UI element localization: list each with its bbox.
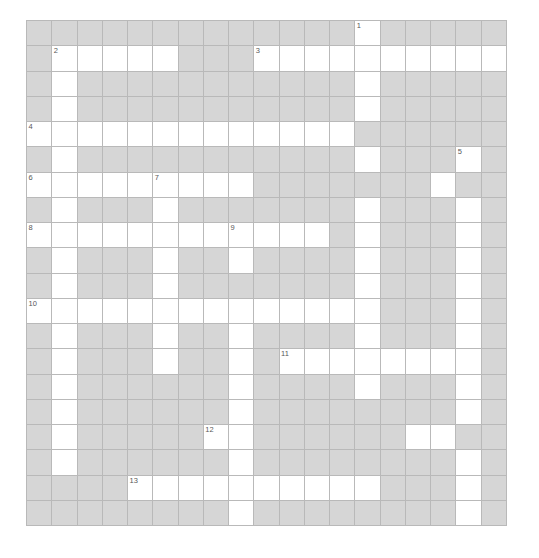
- letter-cell[interactable]: [52, 122, 77, 147]
- letter-cell[interactable]: [355, 147, 380, 172]
- letter-cell[interactable]: [254, 122, 279, 147]
- letter-cell[interactable]: [355, 198, 380, 223]
- letter-cell[interactable]: [52, 198, 77, 223]
- letter-cell[interactable]: [456, 274, 481, 299]
- letter-cell[interactable]: [229, 476, 254, 501]
- letter-cell[interactable]: [280, 223, 305, 248]
- letter-cell[interactable]: [204, 299, 229, 324]
- letter-cell[interactable]: [204, 173, 229, 198]
- letter-cell[interactable]: [456, 46, 481, 71]
- letter-cell[interactable]: [153, 349, 178, 374]
- letter-cell[interactable]: [456, 400, 481, 425]
- letter-cell[interactable]: [254, 223, 279, 248]
- letter-cell[interactable]: [355, 46, 380, 71]
- letter-cell[interactable]: [254, 299, 279, 324]
- letter-cell[interactable]: [179, 476, 204, 501]
- letter-cell[interactable]: 10: [27, 299, 52, 324]
- letter-cell[interactable]: [128, 299, 153, 324]
- letter-cell[interactable]: [229, 425, 254, 450]
- letter-cell[interactable]: [355, 274, 380, 299]
- letter-cell[interactable]: [52, 147, 77, 172]
- letter-cell[interactable]: [431, 425, 456, 450]
- letter-cell[interactable]: [355, 248, 380, 273]
- letter-cell[interactable]: 7: [153, 173, 178, 198]
- letter-cell[interactable]: [52, 72, 77, 97]
- letter-cell[interactable]: [406, 425, 431, 450]
- letter-cell[interactable]: [381, 46, 406, 71]
- letter-cell[interactable]: [431, 349, 456, 374]
- letter-cell[interactable]: [52, 97, 77, 122]
- letter-cell[interactable]: 1: [355, 21, 380, 46]
- letter-cell[interactable]: [280, 46, 305, 71]
- letter-cell[interactable]: [128, 46, 153, 71]
- letter-cell[interactable]: [229, 248, 254, 273]
- letter-cell[interactable]: [280, 299, 305, 324]
- letter-cell[interactable]: [280, 122, 305, 147]
- letter-cell[interactable]: [103, 223, 128, 248]
- letter-cell[interactable]: [52, 299, 77, 324]
- letter-cell[interactable]: [330, 299, 355, 324]
- letter-cell[interactable]: [229, 324, 254, 349]
- letter-cell[interactable]: [153, 122, 178, 147]
- letter-cell[interactable]: [153, 324, 178, 349]
- letter-cell[interactable]: 9: [229, 223, 254, 248]
- letter-cell[interactable]: [431, 173, 456, 198]
- letter-cell[interactable]: [456, 501, 481, 526]
- letter-cell[interactable]: [355, 375, 380, 400]
- letter-cell[interactable]: [153, 476, 178, 501]
- letter-cell[interactable]: [52, 400, 77, 425]
- letter-cell[interactable]: 12: [204, 425, 229, 450]
- letter-cell[interactable]: [204, 122, 229, 147]
- letter-cell[interactable]: 8: [27, 223, 52, 248]
- letter-cell[interactable]: [456, 375, 481, 400]
- letter-cell[interactable]: [456, 299, 481, 324]
- letter-cell[interactable]: [305, 223, 330, 248]
- letter-cell[interactable]: 2: [52, 46, 77, 71]
- letter-cell[interactable]: [456, 450, 481, 475]
- letter-cell[interactable]: [78, 173, 103, 198]
- letter-cell[interactable]: [305, 122, 330, 147]
- letter-cell[interactable]: [52, 223, 77, 248]
- letter-cell[interactable]: [229, 173, 254, 198]
- letter-cell[interactable]: [381, 349, 406, 374]
- letter-cell[interactable]: [179, 223, 204, 248]
- letter-cell[interactable]: [78, 122, 103, 147]
- letter-cell[interactable]: [204, 476, 229, 501]
- letter-cell[interactable]: [78, 46, 103, 71]
- letter-cell[interactable]: [153, 299, 178, 324]
- letter-cell[interactable]: [229, 400, 254, 425]
- letter-cell[interactable]: [305, 349, 330, 374]
- letter-cell[interactable]: [482, 46, 507, 71]
- letter-cell[interactable]: 13: [128, 476, 153, 501]
- letter-cell[interactable]: [280, 476, 305, 501]
- letter-cell[interactable]: [153, 46, 178, 71]
- letter-cell[interactable]: [456, 349, 481, 374]
- letter-cell[interactable]: [153, 198, 178, 223]
- letter-cell[interactable]: [456, 476, 481, 501]
- letter-cell[interactable]: [78, 299, 103, 324]
- letter-cell[interactable]: [128, 223, 153, 248]
- letter-cell[interactable]: [355, 299, 380, 324]
- letter-cell[interactable]: [52, 425, 77, 450]
- letter-cell[interactable]: [103, 299, 128, 324]
- letter-cell[interactable]: [305, 46, 330, 71]
- letter-cell[interactable]: [179, 173, 204, 198]
- letter-cell[interactable]: [52, 324, 77, 349]
- letter-cell[interactable]: [330, 349, 355, 374]
- letter-cell[interactable]: [103, 122, 128, 147]
- letter-cell[interactable]: [330, 122, 355, 147]
- letter-cell[interactable]: [456, 223, 481, 248]
- letter-cell[interactable]: [355, 223, 380, 248]
- letter-cell[interactable]: [305, 299, 330, 324]
- letter-cell[interactable]: [355, 476, 380, 501]
- letter-cell[interactable]: [52, 375, 77, 400]
- letter-cell[interactable]: 3: [254, 46, 279, 71]
- letter-cell[interactable]: [52, 349, 77, 374]
- letter-cell[interactable]: [128, 122, 153, 147]
- letter-cell[interactable]: [103, 173, 128, 198]
- letter-cell[interactable]: [456, 198, 481, 223]
- letter-cell[interactable]: [153, 223, 178, 248]
- letter-cell[interactable]: [229, 450, 254, 475]
- letter-cell[interactable]: [254, 476, 279, 501]
- letter-cell[interactable]: [229, 122, 254, 147]
